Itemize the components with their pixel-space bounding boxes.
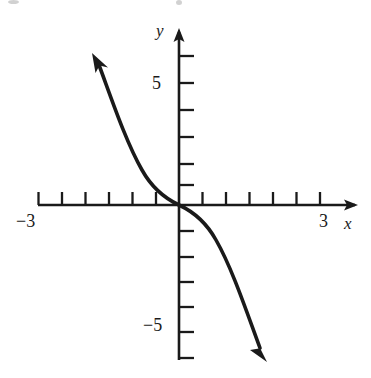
- coordinate-plane: [0, 0, 371, 378]
- y-axis: [174, 28, 185, 360]
- y-axis-min-tick-label: −5: [143, 316, 162, 334]
- x-axis-label: x: [344, 215, 352, 232]
- y-axis-max-tick-label: 5: [152, 74, 161, 92]
- graph-figure: y x −3 3 5 −5: [0, 0, 371, 378]
- x-axis-min-tick-label: −3: [16, 212, 35, 230]
- y-axis-label: y: [156, 22, 164, 39]
- x-axis-max-tick-label: 3: [319, 212, 328, 230]
